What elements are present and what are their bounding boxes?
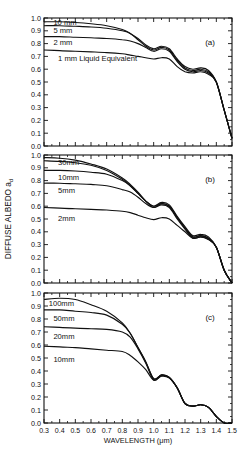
series-label: 2mm [58,214,75,223]
y-tick-label: 1.0 [31,289,41,298]
y-tick-label: 0.4 [31,367,41,376]
panel-b: 0.00.10.20.30.40.50.60.70.80.91.0(b)30mm… [31,151,232,288]
series-line [44,310,232,424]
y-tick-label: 0.2 [31,116,41,125]
y-tick-label: 0.9 [31,163,41,172]
x-tick-label: 1.1 [164,427,174,434]
y-tick-label: 0.2 [31,253,41,262]
y-tick-label: 0.8 [31,176,41,185]
y-tick-label: 0.8 [31,315,41,324]
y-tick-label: 0.4 [31,90,41,99]
y-tick-label: 0.6 [31,341,41,350]
series-label: 1 mm Liquid Equivalent [58,54,138,63]
x-tick-label: 0.6 [86,427,96,434]
y-tick-label: 0.3 [31,240,41,249]
x-tick-label: 0.5 [70,427,80,434]
y-tick-label: 0.0 [31,142,41,151]
series-label: 2 mm [53,38,72,47]
panel-label: (c) [205,313,215,322]
series-label: 20mm [53,332,74,341]
x-axis-title: WAVELENGTH (μm) [104,436,172,445]
panel-label: (b) [205,175,215,184]
series-label: 100mm [49,299,74,308]
series-label: 10mm [58,173,79,182]
x-tick-label: 1.4 [211,427,221,434]
series-label: 10mm [53,355,74,364]
y-tick-label: 0.7 [31,52,41,61]
y-tick-label: 0.1 [31,129,41,138]
y-tick-label: 0.4 [31,227,41,236]
y-tick-label: 0.7 [31,189,41,198]
diffuse-albedo-figure: 0.00.10.20.30.40.50.60.70.80.91.0(a)10 m… [0,0,248,458]
y-tick-label: 0.8 [31,39,41,48]
y-tick-label: 0.5 [31,354,41,363]
series-label: 5 mm [53,26,72,35]
panel-c: 0.00.10.20.30.40.50.60.70.80.91.0(c)100m… [31,289,237,435]
x-tick-label: 0.3 [39,427,49,434]
x-tick-label: 0.8 [117,427,127,434]
x-tick-label: 0.7 [102,427,112,434]
y-tick-label: 0.6 [31,202,41,211]
panel-a: 0.00.10.20.30.40.50.60.70.80.91.0(a)10 m… [31,14,232,151]
series-label: 5mm [58,186,75,195]
series-line [44,327,232,424]
y-tick-label: 0.1 [31,406,41,415]
series-line [44,37,232,139]
y-tick-label: 0.9 [31,302,41,311]
y-axis-title: DIFFUSE ALBEDO ad [4,179,14,259]
y-tick-label: 0.3 [31,103,41,112]
series-line [44,183,232,283]
x-tick-label: 1.2 [180,427,190,434]
x-tick-label: 1.0 [149,427,159,434]
y-tick-label: 0.0 [31,279,41,288]
y-tick-label: 1.0 [31,14,41,23]
y-tick-label: 0.2 [31,393,41,402]
series-label: 30mm [58,158,79,167]
y-tick-label: 0.7 [31,328,41,337]
panel-label: (a) [205,38,215,47]
y-tick-label: 0.5 [31,78,41,87]
x-tick-label: 1.3 [196,427,206,434]
y-tick-label: 0.5 [31,215,41,224]
y-tick-label: 0.9 [31,26,41,35]
series-label: 50mm [53,314,74,323]
x-tick-label: 1.5 [227,427,237,434]
y-tick-label: 1.0 [31,151,41,160]
y-tick-label: 0.3 [31,380,41,389]
x-tick-label: 0.9 [133,427,143,434]
y-tick-label: 0.1 [31,266,41,275]
x-tick-label: 0.4 [55,427,65,434]
y-tick-label: 0.6 [31,65,41,74]
